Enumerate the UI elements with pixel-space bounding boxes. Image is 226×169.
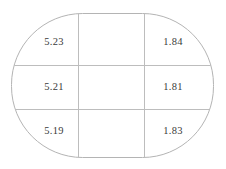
cell-row1-col1-label: 5.23 — [44, 37, 64, 48]
cell-row2-col1-label: 5.21 — [44, 82, 64, 93]
figure-root: 5.23 1.84 5.21 1.81 5.19 1.83 — [0, 0, 226, 169]
grid-lines-group — [11, 13, 214, 158]
cell-row3-col3-label: 1.83 — [163, 126, 183, 137]
cell-row1-col3-label: 1.84 — [163, 37, 183, 48]
cell-row2-col3-label: 1.81 — [163, 82, 183, 93]
cell-row3-col1-label: 5.19 — [44, 126, 64, 137]
diagram-canvas — [0, 0, 226, 169]
